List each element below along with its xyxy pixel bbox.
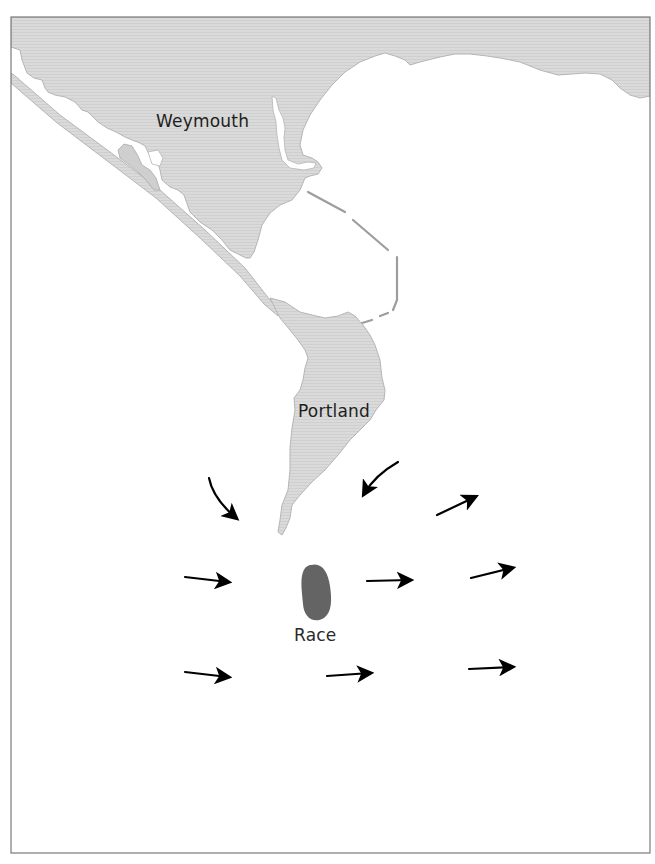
label-race: Race	[294, 625, 336, 645]
label-portland: Portland	[298, 401, 370, 421]
map-canvas	[0, 0, 655, 864]
arrow-icon	[367, 580, 410, 581]
label-weymouth: Weymouth	[156, 111, 249, 131]
